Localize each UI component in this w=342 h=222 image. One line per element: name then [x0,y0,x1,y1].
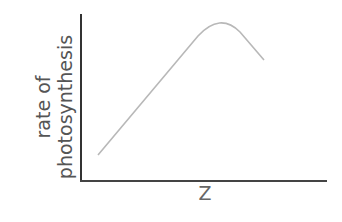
y-axis-label-line2: photosynthesis [54,7,76,207]
x-axis-label: Z [190,182,220,204]
rate-curve [98,23,264,155]
y-axis-label: rate of photosynthesis [32,7,76,207]
y-axis-label-line1: rate of [32,7,54,207]
